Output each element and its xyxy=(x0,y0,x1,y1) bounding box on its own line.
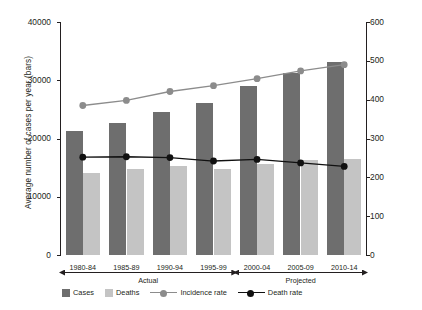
legend-label: Death rate xyxy=(268,288,303,297)
legend-swatch xyxy=(62,289,70,297)
legend-item: Death rate xyxy=(238,288,303,297)
phase-range-arrows xyxy=(0,0,422,310)
chart-legend: CasesDeathsIncidence rateDeath rate xyxy=(62,288,302,297)
legend-line-marker xyxy=(238,289,265,297)
legend-item: Cases xyxy=(62,288,94,297)
legend-label: Deaths xyxy=(116,288,139,297)
chart-container: Average number of cases per year (bars) … xyxy=(0,0,422,310)
legend-item: Deaths xyxy=(105,288,139,297)
legend-swatch xyxy=(105,289,113,297)
legend-line-marker xyxy=(150,289,177,297)
legend-label: Cases xyxy=(73,288,94,297)
legend-item: Incidence rate xyxy=(150,288,226,297)
legend-label: Incidence rate xyxy=(180,288,226,297)
